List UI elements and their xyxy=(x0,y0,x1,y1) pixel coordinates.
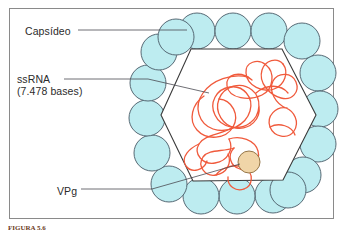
capsomere xyxy=(215,13,251,49)
label-ssrna-name: ssRNA xyxy=(17,73,83,85)
figure-root: Capsídeo ssRNA (7.478 bases) VPg FIGURA … xyxy=(0,0,343,233)
capsomere xyxy=(134,135,170,171)
capsomere xyxy=(251,13,287,49)
capsomere xyxy=(300,55,336,91)
figure-caption-number: FIGURA 5.6 xyxy=(8,224,46,232)
label-capsid: Capsídeo xyxy=(25,25,71,37)
capsomere xyxy=(284,23,320,59)
capsomere xyxy=(130,65,166,101)
label-ssrna-group: ssRNA (7.478 bases) xyxy=(17,73,83,97)
figure-caption: FIGURA 5.6 xyxy=(8,224,338,233)
vpg-protein xyxy=(238,151,260,173)
label-vpg: VPg xyxy=(57,185,77,197)
capsomere xyxy=(183,178,219,214)
label-ssrna-detail: (7.478 bases) xyxy=(17,85,83,97)
capsomere xyxy=(158,19,194,55)
capsomere xyxy=(129,100,165,136)
capsomere xyxy=(219,178,255,214)
